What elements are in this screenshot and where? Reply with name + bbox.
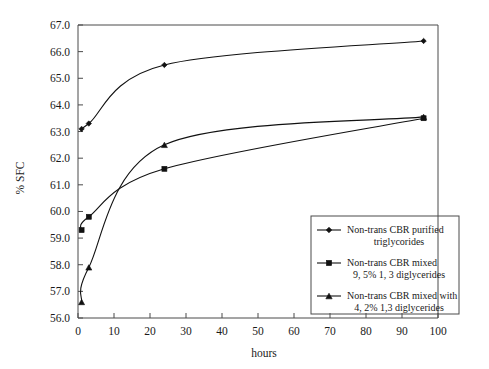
legend-label-line2: 9, 5% 1, 3 diglycerides [353, 269, 445, 280]
y-tick-label: 60.0 [50, 205, 70, 217]
y-tick-label: 64.0 [50, 99, 70, 111]
x-tick-label: 30 [180, 325, 192, 337]
legend-label-line1: Non-trans CBR mixed with [347, 290, 457, 301]
x-tick-label: 20 [144, 325, 156, 337]
y-tick-label: 59.0 [50, 232, 70, 244]
y-tick-label: 56.0 [50, 312, 70, 324]
legend-label-line2: triglycorides [374, 236, 425, 247]
chart-container: 56.057.058.059.060.061.062.063.064.065.0… [0, 0, 489, 369]
x-tick-label: 70 [324, 325, 336, 337]
y-tick-label: 65.0 [50, 72, 70, 84]
x-tick-label: 0 [75, 325, 81, 337]
y-tick-label: 58.0 [50, 259, 70, 271]
x-tick-label: 90 [396, 325, 408, 337]
legend-label-line1: Non-trans CBR mixed [347, 257, 437, 268]
legend-label-line1: Non-trans CBR purified [347, 224, 444, 235]
x-tick-label: 10 [108, 325, 120, 337]
legend-square-marker [326, 260, 331, 265]
legend-label-line2: 4, 2% 1,3 diglycerides [354, 302, 444, 313]
y-tick-label: 62.0 [50, 152, 70, 164]
y-tick-label: 61.0 [50, 179, 70, 191]
y-tick-label: 66.0 [50, 46, 70, 58]
square-marker [86, 214, 91, 219]
x-tick-label: 50 [252, 325, 264, 337]
x-tick-label: 80 [360, 325, 372, 337]
sfc-line-chart: 56.057.058.059.060.061.062.063.064.065.0… [0, 0, 489, 369]
x-tick-label: 60 [288, 325, 300, 337]
y-tick-label: 67.0 [50, 19, 70, 31]
x-tick-label: 100 [429, 325, 447, 337]
x-axis-title: hours [251, 347, 277, 359]
square-marker [79, 228, 84, 233]
y-tick-label: 57.0 [50, 285, 70, 297]
x-tick-label: 40 [216, 325, 228, 337]
square-marker [162, 166, 167, 171]
y-axis-title: % SFC [14, 161, 26, 194]
y-tick-label: 63.0 [50, 126, 70, 138]
